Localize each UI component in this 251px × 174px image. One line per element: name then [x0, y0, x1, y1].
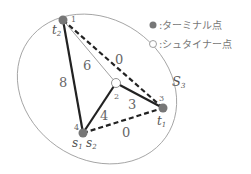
- node-id-4: 4: [74, 123, 79, 132]
- legend-terminal-icon: [150, 22, 157, 29]
- terminal-node-1: [59, 16, 68, 25]
- edge-1-2: [63, 20, 116, 83]
- node-name-t1: t1: [157, 114, 166, 129]
- weight-1-4: 8: [59, 75, 67, 90]
- steiner-node-2: [112, 79, 121, 88]
- node-name-s2: s2: [86, 136, 97, 151]
- node-name-t2: t2: [52, 23, 62, 38]
- edge-2-3: [116, 83, 163, 108]
- edge-1-3: [63, 20, 163, 108]
- region-label: S3: [172, 74, 186, 90]
- weight-4-3: 0: [122, 125, 130, 140]
- legend-steiner-icon: [150, 41, 157, 48]
- weight-1-2: 6: [83, 58, 91, 73]
- node-id-2: 2: [114, 92, 119, 101]
- weight-2-3: 3: [128, 97, 136, 112]
- node-id-1: 1: [71, 15, 76, 24]
- legend: :ターミナル点 :シュタイナー点: [150, 20, 233, 50]
- legend-steiner-label: :シュタイナー点: [159, 39, 232, 50]
- weight-2-4: 4: [100, 108, 108, 123]
- steiner-tree-diagram: 1 2 3 4 t2 t1 s1 s2 8 6 0 4 3 0 S3 :ターミナ…: [0, 0, 251, 174]
- node-id-3: 3: [159, 94, 164, 103]
- node-name-s1: s1: [72, 136, 83, 151]
- legend-terminal-label: :ターミナル点: [159, 20, 222, 31]
- weight-1-3: 0: [115, 52, 123, 67]
- terminal-node-3: [159, 104, 168, 113]
